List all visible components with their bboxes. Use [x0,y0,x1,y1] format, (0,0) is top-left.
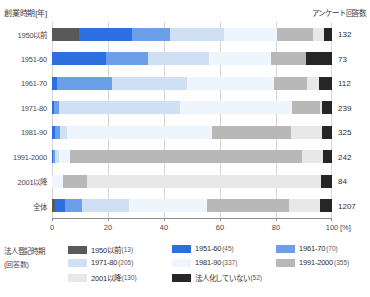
bar-segment [321,175,332,188]
row-label: 全体 [33,200,47,211]
legend-count: (355) [334,259,349,266]
row-response-count: 112 [338,79,351,88]
legend-count: (52) [250,274,262,281]
row-label: 1951-60 [21,54,47,63]
bar-rows: 1950以前1321951-60731961-701121971-8023919… [52,22,332,218]
x-tick [108,218,109,221]
row-label: 1950以前 [18,29,48,40]
legend-count: (130) [122,274,137,281]
y-axis-title: 創業時期[年] [4,7,47,18]
bar-segment [60,126,67,139]
legend-item[interactable]: 1991-2000(355) [276,258,349,267]
legend-label: 2001以降 [91,272,121,283]
bar-segment [271,52,306,65]
bar-row: 1951-6073 [52,52,332,65]
bar-segment [87,175,321,188]
bar-segment [207,199,289,212]
bar-row: 1950以前132 [52,28,332,41]
x-tick-label: 20 [104,223,112,232]
legend-label: 1971-80 [91,258,117,267]
bar-segment [59,101,180,114]
bar-segment [52,28,79,41]
bar-segment [277,28,313,41]
x-tick-label: 60 [216,223,224,232]
legend-label: 1961-70 [299,244,325,253]
legend-label: 1981-90 [195,258,221,267]
legend-swatch [68,274,87,282]
bar-row: 1981-90325 [52,126,332,139]
bar-segment [59,150,70,163]
legend-subtitle: (回答数) [4,259,66,269]
bar-segment [52,52,106,65]
bar-segment [209,52,271,65]
bar-segment [55,199,65,212]
chart-container: 創業時期[年] アンケート回答数 1950以前1321951-60731961-… [0,0,370,297]
legend-label: 1991-2000 [299,258,333,267]
x-tick-label: 80 [272,223,280,232]
legend-count: (70) [326,245,338,252]
legend-swatch [172,245,191,253]
bar-segment [129,199,207,212]
bar-segment [112,77,187,90]
legend-label: 1951-60 [195,244,221,253]
bar-segment [292,101,320,114]
bar-segment [63,175,87,188]
legend-item[interactable]: 1961-70(70) [276,244,338,253]
x-tick [164,218,165,221]
row-label: 1991-2000 [13,152,47,161]
row-response-count: 1207 [338,201,356,210]
bar-segment [187,77,274,90]
row-response-count: 132 [338,30,351,39]
bar-segment [148,52,209,65]
legend-swatch [276,245,295,253]
x-tick [276,218,277,221]
legend-title-box: 法人登記時期 (回答数) [4,245,66,269]
legend-label: 1950以前 [91,244,121,255]
row-label: 1981-90 [21,128,47,137]
legend-count: (45) [222,245,234,252]
bar-segment [106,52,148,65]
legend-count: (205) [118,259,133,266]
bar-segment [291,126,322,139]
legend-item[interactable]: 法人化していない(52) [172,272,262,283]
x-tick [331,218,332,221]
legend-item[interactable]: 1950以前(13) [68,244,133,255]
bar-row: 全体1207 [52,199,332,212]
bar-segment [132,28,170,41]
bar-segment [82,199,129,212]
x-tick [52,218,53,221]
bar-segment [70,150,302,163]
legend-label: 法人化していない [195,272,249,283]
bar-segment [320,199,332,212]
row-label: 2001以降 [18,176,48,187]
bar-segment [79,28,132,41]
bar-segment [323,150,332,163]
legend-item[interactable]: 1951-60(45) [172,244,234,253]
response-count-header: アンケート回答数 [312,7,366,18]
legend-swatch [276,259,295,267]
x-tick-label: 100 [326,223,339,232]
legend-swatch [68,259,87,267]
legend: 法人登記時期 (回答数) 1950以前(13)1951-60(45)1961-7… [4,243,366,293]
bar-segment [180,101,292,114]
bar-segment [302,150,323,163]
plot-area: 1950以前1321951-60731961-701121971-8023919… [52,22,332,218]
legend-item[interactable]: 2001以降(130) [68,272,137,283]
bar-row: 2001以降84 [52,175,332,188]
row-response-count: 239 [338,103,351,112]
bar-segment [57,77,112,90]
legend-item[interactable]: 1971-80(205) [68,258,133,267]
bar-segment [65,199,81,212]
bar-segment [322,101,332,114]
row-response-count: 325 [338,128,351,137]
bar-segment [307,77,320,90]
x-tick-label: 0 [50,223,54,232]
legend-swatch [172,259,191,267]
legend-count: (337) [222,259,237,266]
bar-segment [319,77,332,90]
row-response-count: 73 [338,54,347,63]
row-response-count: 242 [338,152,351,161]
bar-row: 1961-70112 [52,77,332,90]
x-tick [220,218,221,221]
legend-item[interactable]: 1981-90(337) [172,258,237,267]
